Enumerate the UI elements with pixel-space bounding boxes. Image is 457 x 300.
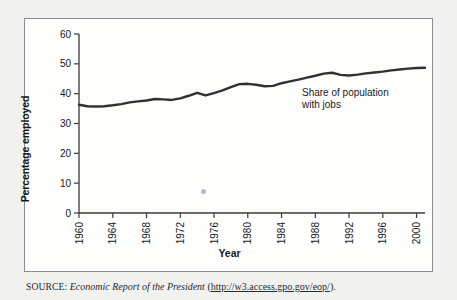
chart-axes (79, 34, 425, 213)
svg-text:1972: 1972 (175, 222, 186, 245)
svg-text:40: 40 (60, 88, 72, 99)
svg-text:1960: 1960 (74, 222, 85, 245)
svg-text:1996: 1996 (377, 222, 388, 245)
svg-text:10: 10 (60, 178, 72, 189)
svg-text:1988: 1988 (310, 222, 321, 245)
svg-text:1976: 1976 (209, 222, 220, 245)
x-axis-ticks: 1960196419681972197619801984198819921996… (74, 213, 423, 244)
svg-text:30: 30 (60, 118, 72, 129)
source-paren-close: ). (330, 281, 336, 292)
svg-text:50: 50 (60, 58, 72, 69)
svg-text:1984: 1984 (276, 222, 287, 245)
svg-text:1968: 1968 (141, 222, 152, 245)
y-axis-ticks: 0102030405060 (60, 29, 79, 219)
figure-box: 0102030405060 19601964196819721976198019… (24, 18, 433, 272)
svg-text:2000: 2000 (411, 222, 422, 245)
svg-text:0: 0 (65, 208, 71, 219)
source-url-link[interactable]: http://w3.access.gpo.gov/eop/ (211, 281, 330, 292)
svg-text:1980: 1980 (242, 222, 253, 245)
svg-text:20: 20 (60, 148, 72, 159)
stray-dot-artifact (201, 189, 206, 194)
source-title: Economic Report of the President (70, 281, 205, 292)
y-axis-title: Percentage employed (19, 79, 31, 219)
source-label: SOURCE: (26, 281, 67, 292)
page-root: 0102030405060 19601964196819721976198019… (0, 0, 457, 300)
svg-text:1964: 1964 (107, 222, 118, 245)
chart-plot: 0102030405060 19601964196819721976198019… (25, 19, 434, 273)
svg-text:1992: 1992 (344, 222, 355, 245)
svg-text:60: 60 (60, 29, 72, 40)
source-note: SOURCE: Economic Report of the President… (26, 281, 336, 292)
x-axis-title: Year (25, 247, 434, 259)
series-annotation-label: Share of population with jobs (302, 87, 389, 110)
